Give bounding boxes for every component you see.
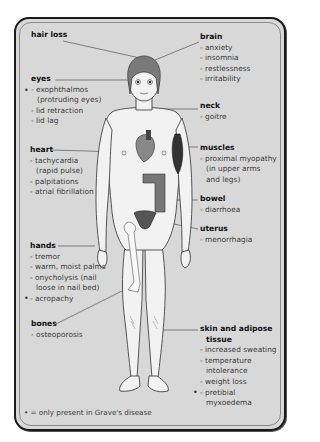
label-skin-title: skin and adipose <box>200 324 277 335</box>
eyes-item: (protruding eyes) <box>31 95 101 106</box>
heart-item: - atrial fibrillation <box>30 187 94 198</box>
leader-hair-loss <box>63 41 140 58</box>
graves-marker-hands: • <box>24 294 29 303</box>
skin-item: intolerance <box>200 366 277 377</box>
label-bowel: bowel - diarrhoea <box>200 194 240 215</box>
skin-item: myxoedema <box>200 398 277 409</box>
graves-marker-eyes: • <box>24 86 29 95</box>
right-hand <box>181 250 190 268</box>
label-uterus-title: uterus <box>200 224 252 235</box>
uterus-item: - menorrhagia <box>200 235 252 246</box>
muscles-item: (in upper arms <box>200 164 277 175</box>
skin-item: - increased sweating <box>200 345 277 356</box>
label-hair-loss-title: hair loss <box>31 30 67 41</box>
heart-item: - palpitations <box>30 177 94 188</box>
label-hands: hands - tremor - warm, moist palms - ony… <box>30 241 106 305</box>
skin-item: - temperature <box>200 356 277 367</box>
graves-footnote: • = only present in Grave's disease <box>24 408 152 417</box>
label-heart-title: heart <box>30 145 94 156</box>
label-hair-loss: hair loss <box>31 30 67 41</box>
bowel-item: - diarrhoea <box>200 205 240 216</box>
neck-item: - goitre <box>200 112 227 123</box>
label-neck: neck - goitre <box>200 101 227 122</box>
label-bones: bones - osteoporosis <box>31 319 83 340</box>
skin-item: - weight loss <box>200 377 277 388</box>
muscles-item: and legs) <box>200 175 277 186</box>
brain-item: - irritability <box>200 74 250 85</box>
brain-item: - restlessness <box>200 64 250 75</box>
label-heart: heart - tachycardia (rapid pulse) - palp… <box>30 145 94 198</box>
muscles-item: - proximal myopathy <box>200 154 277 165</box>
heart-item: (rapid pulse) <box>30 166 94 177</box>
label-brain: brain - anxiety - insomnia - restlessnes… <box>200 32 250 85</box>
leader-brain <box>155 42 199 60</box>
graves-marker-skin: • <box>193 388 198 397</box>
label-uterus: uterus - menorrhagia <box>200 224 252 245</box>
heart-item: - tachycardia <box>30 156 94 167</box>
label-eyes-title: eyes <box>31 74 101 85</box>
label-brain-title: brain <box>200 32 250 43</box>
label-eyes: eyes - exophthalmos (protruding eyes) - … <box>31 74 101 127</box>
label-neck-title: neck <box>200 101 227 112</box>
right-pupil <box>149 81 151 83</box>
aorta <box>146 130 151 140</box>
hands-item: - onycholysis (nail <box>30 273 106 284</box>
hands-item: - acropachy <box>30 294 106 305</box>
right-foot <box>148 376 168 392</box>
label-bones-title: bones <box>31 319 83 330</box>
brain-item: - insomnia <box>200 53 250 64</box>
label-muscles: muscles - proximal myopathy (in upper ar… <box>200 143 277 185</box>
hands-item: - tremor <box>30 252 106 263</box>
eyes-item: - exophthalmos <box>31 85 101 96</box>
hands-item: - warm, moist palms <box>30 262 106 273</box>
skin-item: - pretibial <box>200 388 277 399</box>
brain-item: - anxiety <box>200 43 250 54</box>
label-bowel-title: bowel <box>200 194 240 205</box>
label-hands-title: hands <box>30 241 106 252</box>
left-pupil <box>137 81 139 83</box>
eyes-item: - lid retraction <box>31 106 101 117</box>
hands-item: loose in nail bed) <box>30 283 106 294</box>
left-foot <box>120 376 140 391</box>
label-skin: skin and adipose tissue - increased swea… <box>200 324 277 409</box>
right-leg <box>145 245 165 378</box>
bones-item: - osteoporosis <box>31 330 83 341</box>
label-muscles-title: muscles <box>200 143 277 154</box>
label-skin-title-line2: tissue <box>200 335 277 346</box>
eyes-item: - lid lag <box>31 116 101 127</box>
